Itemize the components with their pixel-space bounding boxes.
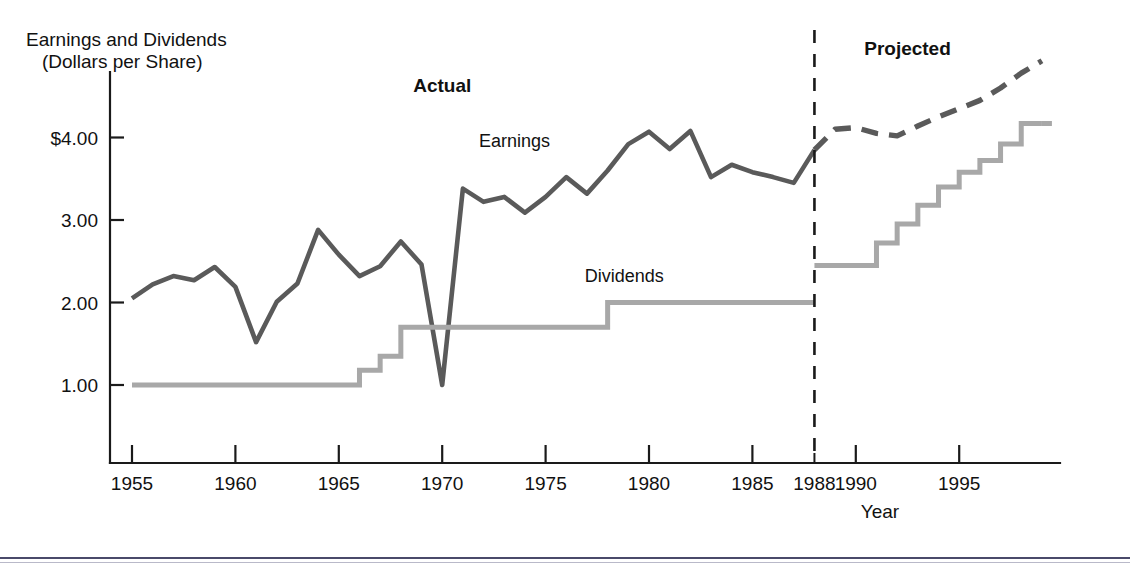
footer-rule-secondary [0, 562, 1130, 563]
x-axis-tick-label: 1988 [793, 473, 835, 494]
series-label-earnings: Earnings [479, 131, 550, 151]
region-label-actual: Actual [413, 75, 471, 96]
series-line-dividends [132, 303, 814, 386]
x-axis-tick-label: 1990 [835, 473, 877, 494]
x-axis-tick-label: 1970 [421, 473, 463, 494]
series-label-dividends: Dividends [585, 266, 664, 286]
x-axis-tick-label: 1965 [318, 473, 360, 494]
x-axis-tick-label: 1980 [628, 473, 670, 494]
region-label-projected: Projected [864, 38, 951, 59]
x-axis-title: Year [861, 501, 900, 522]
y-axis-title-line-2: (Dollars per Share) [42, 51, 203, 72]
series-line-earnings [132, 131, 814, 385]
x-axis-tick-label: 1995 [938, 473, 980, 494]
y-axis-tick-label: 1.00 [61, 375, 98, 396]
chart-figure: 1.002.003.00$4.0019551960196519701975198… [0, 0, 1130, 565]
x-axis-tick-label: 1960 [214, 473, 256, 494]
data-series [132, 61, 1052, 385]
earnings-dividends-line-chart: 1.002.003.00$4.0019551960196519701975198… [0, 0, 1130, 565]
x-axis-tick-label: 1955 [111, 473, 153, 494]
x-axis-tick-label: 1985 [731, 473, 773, 494]
y-axis-tick-label: $4.00 [50, 128, 98, 149]
series-line-dividends-projected [814, 123, 1041, 265]
series-line-earnings-projected [814, 61, 1041, 150]
y-axis-tick-label: 3.00 [61, 210, 98, 231]
y-axis-title-line-1: Earnings and Dividends [26, 29, 227, 50]
footer-rule [0, 557, 1130, 559]
x-axis-tick-label: 1975 [524, 473, 566, 494]
y-axis-tick-label: 2.00 [61, 293, 98, 314]
